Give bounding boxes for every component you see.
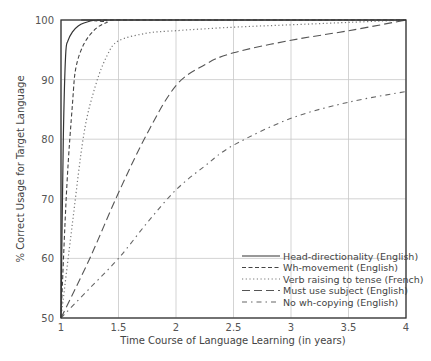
legend-item: Must use subject (English) [242, 285, 408, 296]
line-chart: 5060708090100 11.522.533.54 Time Course … [0, 0, 431, 361]
y-tick-label: 100 [35, 15, 54, 26]
legend-item: Head-directionality (English) [242, 251, 418, 262]
legend-item: Wh-movement (English) [242, 262, 398, 273]
legend-label: Wh-movement (English) [283, 262, 398, 273]
y-tick-label: 80 [41, 134, 54, 145]
y-axis-ticks: 5060708090100 [35, 15, 54, 324]
legend-label: No wh-copying (English) [283, 297, 398, 308]
legend-item: No wh-copying (English) [242, 297, 398, 308]
legend-label: Must use subject (English) [283, 285, 408, 296]
y-tick-label: 90 [41, 75, 54, 86]
y-tick-label: 70 [41, 194, 54, 205]
y-tick-label: 50 [41, 313, 54, 324]
y-axis-title: % Correct Usage for Target Language [15, 75, 26, 262]
x-tick-label: 1 [58, 322, 64, 333]
x-axis-ticks: 11.522.533.54 [58, 322, 409, 333]
legend-label: Verb raising to tense (French) [283, 274, 424, 285]
y-tick-label: 60 [41, 253, 54, 264]
x-axis-title: Time Course of Language Learning (in yea… [119, 335, 345, 346]
legend-item: Verb raising to tense (French) [242, 274, 424, 285]
legend-label: Head-directionality (English) [283, 251, 418, 262]
x-tick-label: 2 [173, 322, 179, 333]
x-tick-label: 3.5 [341, 322, 357, 333]
legend: Head-directionality (English)Wh-movement… [242, 251, 424, 308]
x-tick-label: 2.5 [226, 322, 242, 333]
x-tick-label: 4 [403, 322, 409, 333]
x-tick-label: 1.5 [111, 322, 127, 333]
x-tick-label: 3 [288, 322, 294, 333]
